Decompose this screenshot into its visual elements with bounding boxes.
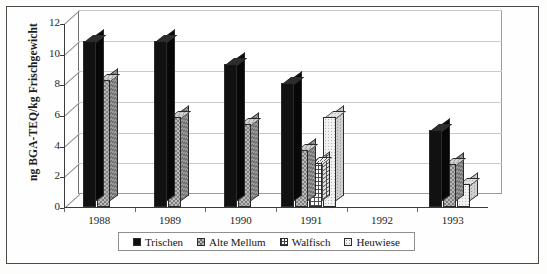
x-tick-label: 1992: [347, 214, 417, 226]
bar-trischen-1988: [83, 41, 96, 207]
legend-item-heuwiese[interactable]: Heuwiese: [344, 236, 399, 248]
legend-item-alte-mellum[interactable]: Alte Mellum: [197, 236, 266, 248]
x-tick-mark: [135, 208, 136, 212]
bar-side-face: [470, 172, 478, 201]
bar-front-face: [154, 41, 167, 207]
plot-floor: [64, 24, 488, 208]
y-tick-label: 6: [38, 108, 60, 120]
bar-side-face: [110, 68, 118, 201]
y-tick-label: 10: [38, 47, 60, 59]
plot-area: 024681012 198819891990199119921993: [64, 8, 514, 213]
y-tick-label: 0: [38, 200, 60, 212]
x-tick-mark: [205, 208, 206, 212]
gridline: [78, 10, 502, 11]
legend-swatch-icon: [280, 238, 288, 246]
bar-side-face: [181, 105, 189, 201]
bar-trischen-1989: [154, 41, 167, 207]
x-tick-mark: [64, 208, 65, 212]
bar-front-face: [83, 41, 96, 207]
x-tick-label: 1989: [135, 214, 205, 226]
x-tick-mark: [417, 208, 418, 212]
x-tick-label: 1993: [418, 214, 488, 226]
x-tick-mark: [347, 208, 348, 212]
legend-item-walfisch[interactable]: Walfisch: [280, 236, 331, 248]
bar-side-face: [251, 112, 259, 201]
bar-front-face: [281, 83, 294, 207]
y-tick-label: 12: [38, 16, 60, 28]
chart-figure: ng BGA-TEQ/kg Frischgewicht 024681012 19…: [0, 0, 547, 274]
bar-side-face: [294, 71, 302, 201]
x-tick-label: 1988: [64, 214, 134, 226]
bar-trischen-1991: [281, 83, 294, 207]
x-tick-label: 1990: [206, 214, 276, 226]
legend-label: Walfisch: [292, 236, 331, 248]
chart-legend: TrischenAlte MellumWalfischHeuwiese: [118, 232, 415, 251]
bar-side-face: [237, 53, 245, 201]
legend-swatch-icon: [344, 238, 352, 246]
bar-trischen-1993: [429, 130, 442, 207]
legend-swatch-icon: [133, 238, 141, 246]
bar-trischen-1990: [224, 64, 237, 207]
legend-swatch-icon: [197, 238, 205, 246]
y-axis-line: [64, 24, 65, 208]
legend-label: Alte Mellum: [209, 236, 266, 248]
x-tick-mark: [276, 208, 277, 212]
bar-front-face: [429, 130, 442, 207]
bar-side-face: [167, 30, 175, 201]
legend-label: Trischen: [145, 236, 183, 248]
legend-label: Heuwiese: [356, 236, 399, 248]
bar-side-face: [336, 105, 344, 201]
x-tick-label: 1991: [276, 214, 346, 226]
bar-side-face: [96, 30, 104, 201]
bar-front-face: [224, 64, 237, 207]
y-tick-label: 2: [38, 169, 60, 181]
legend-item-trischen[interactable]: Trischen: [133, 236, 183, 248]
y-tick-label: 4: [38, 139, 60, 151]
y-tick-label: 8: [38, 77, 60, 89]
